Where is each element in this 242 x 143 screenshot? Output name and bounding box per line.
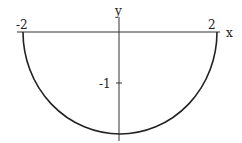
chart: y x -2 2 -1 <box>0 0 242 143</box>
x-axis-label: x <box>226 26 233 40</box>
x-tick-label-2: 2 <box>208 18 216 32</box>
y-tick-label-neg1: -1 <box>99 77 111 91</box>
x-tick-label-neg2: -2 <box>16 18 28 32</box>
y-axis-label: y <box>114 4 122 18</box>
